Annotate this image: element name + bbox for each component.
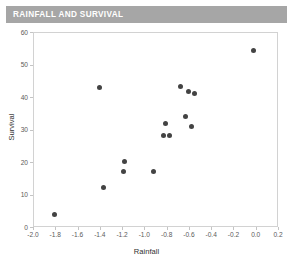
x-axis-tick-mark [167, 227, 168, 230]
scatter-point [101, 185, 106, 190]
scatter-point [161, 133, 166, 138]
x-axis-tick-mark [122, 227, 123, 230]
y-axis-tick-label: 0 [12, 224, 28, 231]
x-axis-tick-mark [278, 227, 279, 230]
scatter-point [189, 124, 194, 129]
chart-figure: RAINFALL AND SURVIVAL 0102030405060 -2.0… [0, 0, 293, 265]
x-axis-tick-mark [78, 227, 79, 230]
page-title: RAINFALL AND SURVIVAL [13, 8, 123, 21]
x-axis-tick-mark [211, 227, 212, 230]
x-axis-tick-mark [100, 227, 101, 230]
scatter-point [151, 169, 156, 174]
x-axis-tick-mark [144, 227, 145, 230]
y-axis-tick-label: 50 [12, 61, 28, 68]
x-axis-tick-mark [233, 227, 234, 230]
y-axis-tick-label: 60 [12, 29, 28, 36]
scatter-point [183, 114, 188, 119]
scatter-point [167, 133, 172, 138]
scatter-point [122, 159, 127, 164]
scatter-point [163, 121, 168, 126]
x-axis-tick-mark [189, 227, 190, 230]
x-axis-tick-mark [55, 227, 56, 230]
y-axis-title: Survival [7, 87, 17, 167]
scatter-point [251, 48, 256, 53]
scatter-plot-area [33, 32, 278, 227]
scatter-point [192, 91, 197, 96]
scatter-point [186, 89, 191, 94]
scatter-point [52, 212, 57, 217]
scatter-point [97, 85, 102, 90]
scatter-point [178, 84, 183, 89]
y-axis-tick-label: 10 [12, 191, 28, 198]
x-axis-tick-mark [256, 227, 257, 230]
x-axis-title: Rainfall [0, 247, 293, 257]
x-axis-tick-label: 0.2 [265, 231, 291, 238]
x-axis-tick-mark [33, 227, 34, 230]
scatter-point [121, 169, 126, 174]
